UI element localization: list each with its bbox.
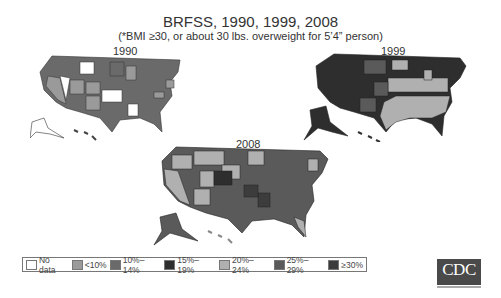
legend-swatch [219,260,230,270]
legend-item-lt10: <10% [72,260,107,270]
chart-title: BRFSS, 1990, 1999, 2008 [0,13,501,30]
chart-subtitle: (*BMI ≥30, or about 30 lbs. overweight f… [0,30,501,42]
legend-item-20-24: 20%–24% [219,255,271,275]
legend-item-no-data: No data [26,255,69,275]
legend-swatch [164,260,175,270]
legend-swatch [72,260,83,270]
cdc-logo-tagline [437,286,481,288]
legend-label: 25%–29% [287,255,326,275]
legend-label: 10%–14% [123,255,162,275]
legend-label: 15%–19% [177,255,216,275]
legend-swatch [110,260,121,270]
legend-swatch [274,260,285,270]
legend-item-15-19: 15%–19% [164,255,216,275]
legend-item-gte30: ≥30% [328,260,363,270]
us-map-1999 [300,52,490,142]
us-map-2008 [150,145,360,250]
legend: No data <10% 10%–14% 15%–19% 20%–24% 25%… [22,257,367,272]
legend-item-10-14: 10%–14% [110,255,162,275]
legend-label: 20%–24% [232,255,271,275]
legend-label: No data [39,255,69,275]
legend-swatch [26,260,37,270]
cdc-logo: CDC [437,259,481,285]
legend-label: <10% [85,260,107,270]
legend-item-25-29: 25%–29% [274,255,326,275]
legend-swatch [328,260,339,270]
us-map-1990 [30,52,190,142]
legend-label: ≥30% [341,260,363,270]
